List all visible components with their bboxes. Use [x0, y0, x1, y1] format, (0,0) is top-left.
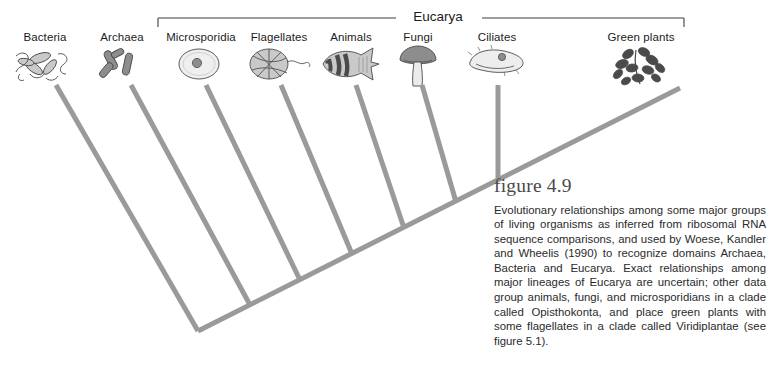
fungi-icon [396, 44, 440, 88]
branch-fungi [422, 85, 456, 202]
archaea-icon [97, 44, 147, 84]
figure-caption-block: figure 4.9 Evolutionary relationships am… [494, 176, 766, 348]
branch-archaea [131, 85, 250, 305]
ciliates-icon [464, 44, 530, 78]
taxon-label-archaea: Archaea [100, 31, 144, 43]
figure-page: Eucarya BacteriaArchaeaMicrosporidiaFlag… [0, 0, 773, 367]
flagellates-icon [243, 44, 313, 84]
bacteria-icon [10, 44, 80, 84]
taxon-label-green-plants: Green plants [607, 31, 674, 43]
branch-animals [356, 85, 404, 228]
taxon-label-animals: Animals [330, 31, 372, 43]
taxon-label-ciliates: Ciliates [478, 31, 517, 43]
microsporidia-icon [172, 44, 226, 84]
branch-microsporidia [206, 85, 300, 280]
animals-icon [315, 44, 387, 84]
taxon-label-fungi: Fungi [403, 31, 432, 43]
clade-label-eucarya: Eucarya [413, 9, 463, 24]
taxon-label-microsporidia: Microsporidia [166, 31, 236, 43]
figure-number: figure 4.9 [494, 176, 766, 196]
branch-flagellates [281, 85, 352, 254]
green-plants-icon [606, 44, 676, 88]
taxon-label-flagellates: Flagellates [251, 31, 308, 43]
branch-bacteria [56, 85, 198, 331]
figure-caption-text: Evolutionary relationships among some ma… [494, 203, 766, 349]
taxon-label-bacteria: Bacteria [24, 31, 67, 43]
